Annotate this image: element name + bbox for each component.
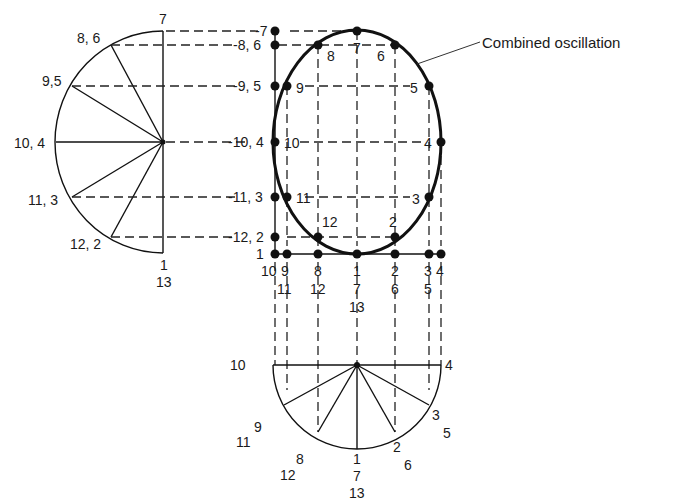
label-ellipse-5: 5 (410, 80, 418, 96)
label-left-7: 7 (159, 11, 167, 27)
label-left-13: 13 (156, 274, 172, 290)
label-bottom-5: 5 (443, 425, 451, 441)
label-axis-12-2: -12, 2 (228, 229, 264, 245)
label-axis-11-3: -11, 3 (228, 189, 263, 205)
label-ellipse-12: 12 (322, 214, 338, 230)
label-ellipse-2: 2 (389, 214, 397, 230)
bottom-phasor-labels: 10 4 3 5 9 11 8 12 1 7 13 2 6 (230, 357, 453, 501)
label-ellipse-4: 4 (424, 135, 432, 151)
label-haxis-8: 8 (314, 263, 322, 279)
label-axis-1: 1 (256, 246, 264, 262)
label-bottom-10: 10 (230, 357, 246, 373)
label-ellipse-9: 9 (296, 80, 304, 96)
label-haxis-5: 5 (424, 281, 432, 297)
label-haxis-10: 10 (261, 263, 277, 279)
label-haxis-9: 9 (281, 263, 289, 279)
label-left-10-4: 10, 4 (14, 135, 45, 151)
label-bottom-7: 7 (353, 468, 361, 484)
label-haxis-2: 2 (391, 263, 399, 279)
label-bottom-3: 3 (432, 407, 440, 423)
combined-oscillation-diagram: Combined oscillation 7 8, 6 9,5 10, 4 11… (0, 0, 680, 504)
label-left-9-5: 9,5 (42, 73, 62, 89)
label-haxis-4: 4 (436, 263, 444, 279)
callout-label: Combined oscillation (482, 34, 620, 51)
label-bottom-12: 12 (280, 467, 296, 483)
label-ellipse-3: 3 (412, 191, 420, 207)
label-axis-8-6: -8, 6 (233, 37, 261, 53)
label-ellipse-11: 11 (296, 190, 311, 206)
label-haxis-13: 13 (349, 299, 365, 315)
label-ellipse-7: 7 (353, 40, 361, 56)
label-axis-9-5: -9, 5 (233, 78, 261, 94)
label-left-12-2: 12, 2 (70, 236, 101, 252)
left-phasor-semicircle (55, 31, 166, 253)
label-haxis-6: 6 (391, 281, 399, 297)
vertical-axis-labels: -7 -8, 6 -9, 5 -10, 4 -11, 3 -12, 2 1 (228, 23, 268, 262)
ellipse-point-labels: 7 8 6 9 5 10 4 11 3 12 2 (284, 40, 432, 230)
label-ellipse-6: 6 (377, 48, 385, 64)
label-bottom-6: 6 (404, 457, 412, 473)
label-left-8-6: 8, 6 (77, 30, 101, 46)
horizontal-axis-labels: 10 9 11 8 12 1 7 13 2 6 3 5 4 (261, 263, 444, 315)
label-haxis-12: 12 (310, 281, 326, 297)
label-left-11-3: 11, 3 (28, 192, 58, 208)
label-bottom-13: 13 (349, 485, 365, 501)
label-bottom-11: 11 (236, 434, 251, 450)
callout: Combined oscillation (417, 34, 620, 64)
label-bottom-8: 8 (296, 451, 304, 467)
label-bottom-2: 2 (393, 439, 401, 455)
bottom-phasor-semicircle (273, 362, 441, 449)
label-bottom-4: 4 (445, 357, 453, 373)
label-haxis-1: 1 (353, 263, 361, 279)
label-haxis-3: 3 (424, 263, 432, 279)
label-haxis-7: 7 (353, 281, 361, 297)
label-haxis-11: 11 (277, 281, 292, 297)
label-axis-10-4: -10, 4 (228, 134, 264, 150)
label-ellipse-10: 10 (284, 135, 300, 151)
label-bottom-9: 9 (254, 419, 262, 435)
label-left-1: 1 (160, 257, 168, 273)
label-bottom-1: 1 (353, 451, 361, 467)
label-ellipse-8: 8 (327, 48, 335, 64)
